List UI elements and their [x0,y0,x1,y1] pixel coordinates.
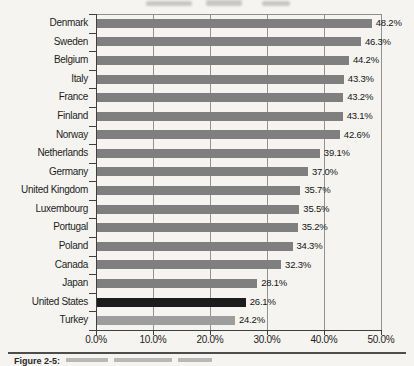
category-label: Canada [0,256,88,275]
category-label: Netherlands [0,144,88,163]
scan-artifact [206,0,242,6]
chart-row: Canada32.3% [0,256,414,275]
category-label: Luxembourg [0,200,88,219]
chart-row: Norway42.6% [0,126,414,145]
category-label: United Kingdom [0,181,88,200]
scan-artifact [262,1,290,6]
category-label: Japan [0,274,88,293]
bar-sweden [97,37,361,46]
value-label: 42.6% [344,126,370,145]
value-label: 43.3% [348,70,374,89]
bar-germany [97,167,308,176]
bar-united-kingdom [97,186,300,195]
caption-clipped-text [178,358,212,362]
value-label: 39.1% [324,144,350,163]
value-label: 37.0% [312,163,338,182]
caption-clipped-text [114,358,172,362]
category-label: Denmark [0,14,88,33]
chart-row: Italy43.3% [0,70,414,89]
x-axis-label: 50.0% [359,334,403,345]
chart-row: Netherlands39.1% [0,144,414,163]
value-label: 43.2% [347,88,373,107]
value-label: 26.1% [250,293,276,312]
chart-row: France43.2% [0,88,414,107]
chart-row: Belgium44.2% [0,51,414,70]
bar-netherlands [97,149,320,158]
bar-finland [97,112,343,121]
bar-poland [97,242,293,251]
category-label: Italy [0,70,88,89]
chart-row: Finland43.1% [0,107,414,126]
x-axis-label: 40.0% [302,334,346,345]
value-label: 46.3% [365,33,391,52]
value-label: 35.2% [302,218,328,237]
chart-row: Denmark48.2% [0,14,414,33]
chart-row: United States26.1% [0,293,414,312]
category-label: Germany [0,163,88,182]
x-axis-label: 20.0% [188,334,232,345]
value-label: 32.3% [285,256,311,275]
category-label: France [0,88,88,107]
scan-artifact [146,1,192,6]
category-label: Belgium [0,51,88,70]
category-label: Turkey [0,311,88,330]
caption-clipped-text [66,358,108,362]
value-label: 44.2% [353,51,379,70]
figure-caption-label: Figure 2-5: [14,356,60,366]
chart-row: United Kingdom35.7% [0,181,414,200]
value-label: 48.2% [376,14,402,33]
category-label: Finland [0,107,88,126]
value-label: 24.2% [239,311,265,330]
chart-row: Japan28.1% [0,274,414,293]
x-axis-label: 0.0% [74,334,118,345]
category-label: Sweden [0,33,88,52]
bar-france [97,93,343,102]
x-axis-label: 30.0% [245,334,289,345]
chart-row: Poland34.3% [0,237,414,256]
bar-turkey [97,316,235,325]
category-label: Poland [0,237,88,256]
value-label: 35.7% [304,181,330,200]
caption-rule [8,352,406,354]
value-label: 28.1% [261,274,287,293]
y-tick [89,330,96,331]
figure-page: Denmark48.2%Sweden46.3%Belgium44.2%Italy… [0,0,414,366]
x-axis-label: 10.0% [131,334,175,345]
bar-norway [97,130,340,139]
value-label: 43.1% [347,107,373,126]
value-label: 35.5% [303,200,329,219]
bar-portugal [97,223,298,232]
chart-row: Luxembourg35.5% [0,200,414,219]
chart-row: Sweden46.3% [0,33,414,52]
chart-row: Germany37.0% [0,163,414,182]
value-label: 34.3% [297,237,323,256]
chart-row: Portugal35.2% [0,218,414,237]
bar-italy [97,75,344,84]
category-label: Norway [0,126,88,145]
bar-canada [97,260,281,269]
bar-luxembourg [97,205,299,214]
category-label: Portugal [0,218,88,237]
chart-row: Turkey24.2% [0,311,414,330]
bar-japan [97,279,257,288]
bar-denmark [97,19,372,28]
bar-united-states [97,298,246,307]
bar-belgium [97,56,349,65]
x-axis-line [96,330,382,331]
category-label: United States [0,293,88,312]
